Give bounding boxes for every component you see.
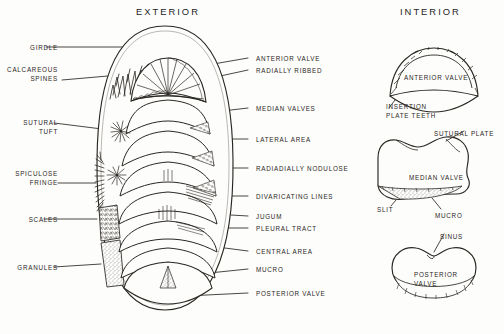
label-granules-line-0: GRANULES: [17, 264, 58, 273]
label-insertion-plate-teeth-line-1: PLATE TEETH: [386, 112, 436, 121]
label-spiculose-fringe-line-1: FRINGE: [15, 179, 58, 188]
label-sutural-tuft-line-1: TUFT: [23, 128, 58, 137]
label-calcareous-spines-line-1: SPINES: [7, 75, 58, 84]
label-insertion-plate-teeth: INSERTIONPLATE TEETH: [386, 103, 436, 120]
label-girdle: GIRDLE: [30, 44, 58, 53]
label-radially-ribbed: RADIALLY RIBBED: [256, 67, 322, 76]
label-posterior-valve-line-0: POSTERIOR VALVE: [256, 290, 325, 299]
label-posterior-valve-interior-line-1: VALVE: [414, 280, 458, 289]
label-slit: SLIT: [377, 206, 393, 215]
label-calcareous-spines-line-0: CALCAREOUS: [7, 66, 58, 75]
label-slit-line-0: SLIT: [377, 206, 393, 215]
label-divaricating-lines-line-0: DIVARICATING LINES: [256, 193, 333, 202]
label-radially-ribbed-line-0: RADIALLY RIBBED: [256, 67, 322, 76]
label-mucro-interior-line-0: MUCRO: [435, 212, 463, 221]
label-radiadially-nodulose-line-0: RADIADIALLY NODULOSE: [256, 165, 348, 174]
label-central-area-line-0: CENTRAL AREA: [256, 248, 313, 257]
label-lateral-area-line-0: LATERAL AREA: [256, 136, 311, 145]
label-granules: GRANULES: [17, 264, 58, 273]
label-lateral-area: LATERAL AREA: [256, 136, 311, 145]
label-posterior-valve-interior: POSTERIORVALVE: [414, 271, 458, 288]
label-sinus-line-0: SINUS: [440, 233, 463, 242]
label-mucro: MUCRO: [256, 266, 284, 275]
median-valve-interior-shape: [378, 137, 469, 200]
label-sutural-tuft-line-0: SUTURAL: [23, 119, 58, 128]
label-median-valve-line-0: MEDIAN VALVE: [409, 174, 464, 183]
label-scales-line-0: SCALES: [29, 216, 58, 225]
label-pleural-tract: PLEURAL TRACT: [256, 225, 317, 234]
label-spiculose-fringe-line-0: SPICULOSE: [15, 170, 58, 179]
label-anterior-valve-line-0: ANTERIOR VALVE: [256, 55, 320, 64]
label-sutural-plate: SUTURAL PLATE: [434, 130, 494, 139]
label-girdle-line-0: GIRDLE: [30, 44, 58, 53]
label-mucro-line-0: MUCRO: [256, 266, 284, 275]
label-posterior-valve-interior-line-0: POSTERIOR: [414, 271, 458, 280]
label-radiadially-nodulose: RADIADIALLY NODULOSE: [256, 165, 348, 174]
label-anterior-valve: ANTERIOR VALVE: [256, 55, 320, 64]
leader-granules: [54, 264, 101, 267]
label-insertion-plate-teeth-line-0: INSERTION: [386, 103, 436, 112]
panel-title-exterior: EXTERIOR: [136, 6, 200, 17]
label-posterior-valve: POSTERIOR VALVE: [256, 290, 325, 299]
scales-texture: [99, 205, 120, 241]
label-sutural-tuft: SUTURALTUFT: [23, 119, 58, 136]
diagram-canvas: EXTERIOR INTERIOR GIRDLECALCAREOUSSPINES…: [0, 0, 504, 334]
label-anterior-valve-interior: ANTERIOR VALVE: [404, 74, 468, 83]
label-median-valve: MEDIAN VALVE: [409, 174, 464, 183]
label-pleural-tract-line-0: PLEURAL TRACT: [256, 225, 317, 234]
label-calcareous-spines: CALCAREOUSSPINES: [7, 66, 58, 83]
label-sutural-plate-line-0: SUTURAL PLATE: [434, 130, 494, 139]
label-central-area: CENTRAL AREA: [256, 248, 313, 257]
label-jugum: JUGUM: [256, 213, 282, 222]
label-scales: SCALES: [29, 216, 58, 225]
label-sinus: SINUS: [440, 233, 463, 242]
label-median-valves-line-0: MEDIAN VALVES: [256, 105, 316, 114]
label-divaricating-lines: DIVARICATING LINES: [256, 193, 333, 202]
label-spiculose-fringe: SPICULOSEFRINGE: [15, 170, 58, 187]
panel-title-interior: INTERIOR: [400, 6, 461, 17]
label-anterior-valve-interior-line-0: ANTERIOR VALVE: [404, 74, 468, 83]
label-jugum-line-0: JUGUM: [256, 213, 282, 222]
label-mucro-interior: MUCRO: [435, 212, 463, 221]
label-median-valves: MEDIAN VALVES: [256, 105, 316, 114]
